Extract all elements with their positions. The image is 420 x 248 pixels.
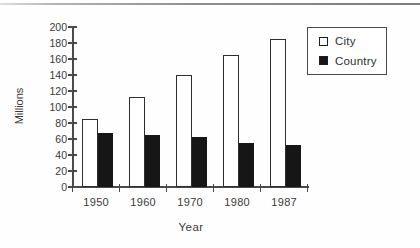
y-tick [68,58,77,59]
y-tick [68,26,77,27]
city-swatch-icon [319,37,328,46]
y-tick-label: 0 [37,181,67,193]
bar-country-1987 [286,145,302,187]
y-tick [68,90,77,91]
x-category-label: 1960 [120,196,167,209]
x-category-label: 1987 [261,196,308,209]
bar-city-1950 [82,119,98,187]
figure-page: Millions Year City Country 0204060801001… [0,0,420,248]
x-category-label: 1950 [73,196,120,209]
legend-item-country: Country [319,55,386,67]
y-tick [68,106,77,107]
y-tick-label: 140 [37,69,67,81]
y-tick-label: 160 [37,53,67,65]
y-tick-label: 60 [37,133,67,145]
y-axis-title: Millions [12,76,26,136]
y-tick-label: 120 [37,85,67,97]
bar-city-1987 [270,39,286,187]
x-axis-title: Year [160,221,222,234]
x-tick [307,184,308,192]
bar-city-1980 [223,55,239,187]
x-tick [166,184,167,192]
x-category-label: 1980 [214,196,261,209]
bar-chart: Millions Year City Country 0204060801001… [0,0,420,248]
bar-country-1980 [239,143,255,187]
y-tick [68,74,77,75]
x-tick [119,184,120,192]
y-tick [68,170,77,171]
y-tick-label: 200 [37,21,67,33]
y-tick-label: 80 [37,117,67,129]
y-tick [68,138,77,139]
y-tick-label: 40 [37,149,67,161]
legend: City Country [307,27,387,75]
x-tick [72,184,73,192]
x-category-label: 1970 [167,196,214,209]
y-tick-label: 180 [37,37,67,49]
y-tick-label: 100 [37,101,67,113]
bar-country-1950 [98,133,114,187]
bar-country-1970 [192,137,208,187]
y-tick [68,122,77,123]
y-tick [68,154,77,155]
legend-label-city: City [335,35,356,47]
x-tick [260,184,261,192]
x-tick [213,184,214,192]
country-swatch-icon [319,56,328,65]
bar-city-1970 [176,75,192,187]
y-tick [68,42,77,43]
legend-label-country: Country [335,55,377,67]
bar-city-1960 [129,97,145,187]
legend-item-city: City [319,35,386,47]
y-tick-label: 20 [37,165,67,177]
bar-country-1960 [145,135,161,187]
